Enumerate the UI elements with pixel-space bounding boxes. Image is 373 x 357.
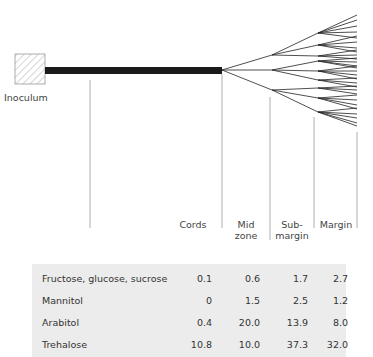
zone-label-sub-margin: Sub- margin <box>272 219 312 241</box>
table-row: Arabitol 0.4 20.0 13.9 8.0 <box>32 312 346 334</box>
mycelial-cord <box>45 67 222 74</box>
sugar-content-table: Fructose, glucose, sucrose 0.1 0.6 1.7 2… <box>32 264 346 357</box>
table-row: Fructose, glucose, sucrose 0.1 0.6 1.7 2… <box>32 268 346 290</box>
zone-label-cords: Cords <box>170 219 216 230</box>
zone-label-mid-zone: Mid zone <box>225 219 267 241</box>
hyphal-branches <box>222 15 357 126</box>
inoculum-block <box>15 54 45 84</box>
inoculum-label: Inoculum <box>4 92 48 103</box>
zone-label-margin: Margin <box>316 219 356 230</box>
table-row: Trehalose 10.8 10.0 37.3 32.0 <box>32 334 346 356</box>
table-row: Mannitol 0 1.5 2.5 1.2 <box>32 290 346 312</box>
